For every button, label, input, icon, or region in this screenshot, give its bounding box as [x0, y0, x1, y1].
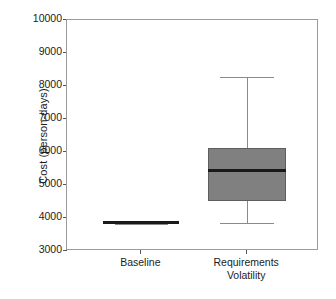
y-axis-tick-label: 5000: [18, 178, 62, 189]
plot-area: [66, 19, 318, 250]
whisker-cap-upper: [220, 77, 275, 78]
y-axis-tick-label: 3000: [18, 244, 62, 255]
box-series-layer: [67, 20, 317, 249]
whisker-cap-lower: [220, 223, 275, 224]
y-axis-tick-labels: 100009000800070006000500040003000: [18, 0, 62, 299]
y-axis-tick-label: 9000: [18, 46, 62, 57]
y-axis-tick-label: 4000: [18, 211, 62, 222]
y-axis-tick-label: 8000: [18, 79, 62, 90]
whisker-upper: [247, 77, 248, 148]
y-axis-tick-label: 7000: [18, 112, 62, 123]
x-axis-label-baseline: Baseline: [80, 256, 200, 269]
median-line: [208, 169, 286, 172]
boxplot-figure: Cost (person-days) 100009000800070006000…: [0, 0, 336, 299]
y-axis-tick-label: 6000: [18, 145, 62, 156]
box-body: [208, 148, 286, 201]
x-axis-tick-mark: [140, 250, 141, 254]
median-line: [103, 221, 179, 224]
x-axis-tick-mark: [246, 250, 247, 254]
whisker-lower: [247, 201, 248, 223]
x-axis-label-requirements-volatility: Requirements Volatility: [186, 256, 306, 282]
y-axis-tick-label: 10000: [18, 13, 62, 24]
